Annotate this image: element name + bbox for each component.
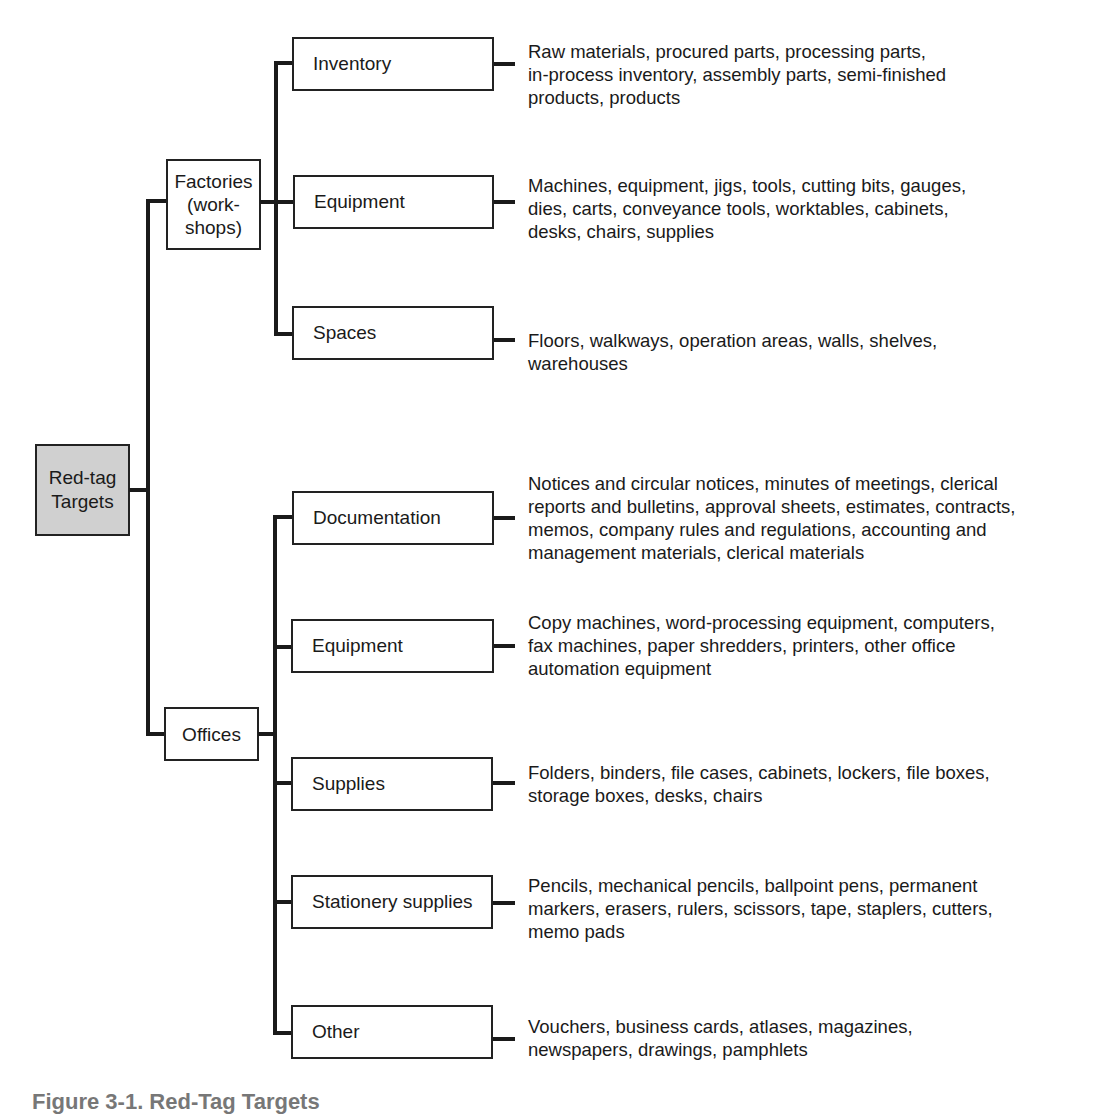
connector-to-office-equipment (273, 645, 293, 649)
factories-label-line3: shops) (174, 216, 252, 239)
desc-line: in-process inventory, assembly parts, se… (528, 63, 1103, 86)
documentation-label: Documentation (313, 507, 441, 529)
connector-to-offices (146, 732, 165, 736)
node-factories: Factories (work- shops) (166, 159, 261, 250)
desc-line: products, products (528, 86, 1103, 109)
connector-to-documentation (273, 515, 293, 519)
supplies-label: Supplies (312, 773, 385, 795)
connector-to-factory-equipment (274, 200, 293, 204)
desc-line: Pencils, mechanical pencils, ballpoint p… (528, 874, 1103, 897)
connector-spaces-desc (494, 338, 515, 342)
connector-inventory-desc (494, 62, 515, 66)
other-label: Other (312, 1021, 360, 1043)
connector-offices-trunk (273, 515, 277, 1035)
connector-stationery-desc (493, 901, 515, 905)
connector-documentation-desc (494, 516, 515, 520)
spaces-label: Spaces (313, 322, 376, 344)
factories-label-line1: Factories (174, 170, 252, 193)
office-equipment-description: Copy machines, word-processing equipment… (528, 611, 1103, 680)
supplies-description: Folders, binders, file cases, cabinets, … (528, 761, 1103, 807)
desc-line: dies, carts, conveyance tools, worktable… (528, 197, 1103, 220)
connector-to-inventory (274, 61, 293, 65)
connector-to-stationery (273, 900, 293, 904)
connector-to-spaces (274, 332, 293, 336)
connector-trunk-level1 (146, 199, 150, 736)
desc-line: reports and bulletins, approval sheets, … (528, 495, 1103, 518)
desc-line: automation equipment (528, 657, 1103, 680)
desc-line: fax machines, paper shredders, printers,… (528, 634, 1103, 657)
desc-line: Copy machines, word-processing equipment… (528, 611, 1103, 634)
connector-other-desc (493, 1037, 515, 1041)
connector-supplies-desc (493, 781, 515, 785)
connector-factory-equipment-desc (494, 200, 515, 204)
desc-line: desks, chairs, supplies (528, 220, 1103, 243)
stationery-supplies-label: Stationery supplies (312, 891, 473, 913)
connector-factories-trunk (274, 61, 278, 336)
stationery-supplies-description: Pencils, mechanical pencils, ballpoint p… (528, 874, 1103, 943)
factory-equipment-description: Machines, equipment, jigs, tools, cuttin… (528, 174, 1103, 243)
spaces-description: Floors, walkways, operation areas, walls… (528, 329, 1103, 375)
desc-line: management materials, clerical materials (528, 541, 1103, 564)
other-description: Vouchers, business cards, atlases, magaz… (528, 1015, 1103, 1061)
connector-to-other (273, 1031, 293, 1035)
node-documentation: Documentation (292, 491, 494, 545)
inventory-label: Inventory (313, 53, 391, 75)
connector-to-supplies (273, 781, 293, 785)
node-stationery-supplies: Stationery supplies (291, 875, 493, 929)
desc-line: memos, company rules and regulations, ac… (528, 518, 1103, 541)
root-label-line2: Targets (49, 490, 117, 514)
node-inventory: Inventory (292, 37, 494, 91)
desc-line: Notices and circular notices, minutes of… (528, 472, 1103, 495)
desc-line: memo pads (528, 920, 1103, 943)
office-equipment-label: Equipment (312, 635, 403, 657)
root-label-line1: Red-tag (49, 466, 117, 490)
desc-line: Vouchers, business cards, atlases, magaz… (528, 1015, 1103, 1038)
node-supplies: Supplies (291, 757, 493, 811)
node-spaces: Spaces (292, 306, 494, 360)
documentation-description: Notices and circular notices, minutes of… (528, 472, 1103, 564)
desc-line: newspapers, drawings, pamphlets (528, 1038, 1103, 1061)
offices-label: Offices (182, 723, 241, 746)
node-factory-equipment: Equipment (293, 175, 494, 229)
figure-caption: Figure 3-1. Red-Tag Targets (32, 1089, 320, 1115)
desc-line: warehouses (528, 352, 1103, 375)
desc-line: Machines, equipment, jigs, tools, cuttin… (528, 174, 1103, 197)
node-offices: Offices (164, 707, 259, 761)
desc-line: Floors, walkways, operation areas, walls… (528, 329, 1103, 352)
root-node-red-tag-targets: Red-tag Targets (35, 444, 130, 536)
desc-line: Raw materials, procured parts, processin… (528, 40, 1103, 63)
inventory-description: Raw materials, procured parts, processin… (528, 40, 1103, 109)
desc-line: storage boxes, desks, chairs (528, 784, 1103, 807)
node-office-equipment: Equipment (291, 619, 494, 673)
factory-equipment-label: Equipment (314, 191, 405, 213)
desc-line: Folders, binders, file cases, cabinets, … (528, 761, 1103, 784)
connector-to-factories (146, 199, 167, 203)
connector-office-equipment-desc (494, 644, 515, 648)
node-other: Other (291, 1005, 493, 1059)
factories-label-line2: (work- (174, 193, 252, 216)
desc-line: markers, erasers, rulers, scissors, tape… (528, 897, 1103, 920)
